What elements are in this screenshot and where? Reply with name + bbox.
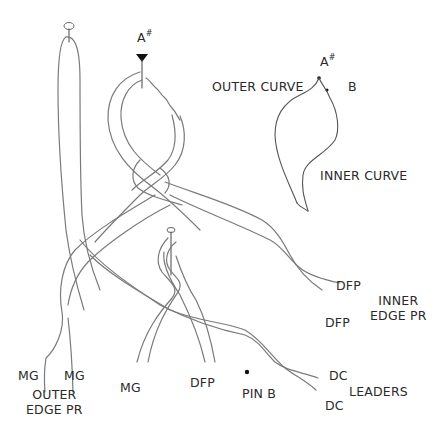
upper-knot	[95, 54, 200, 242]
leader-strands	[80, 240, 318, 390]
center-knot	[137, 228, 215, 363]
outer-edge-pr-line1: OUTER	[26, 387, 83, 402]
inner-edge-pr-label: INNER EDGE PR	[370, 293, 427, 323]
outer-edge-pr-label: OUTER EDGE PR	[26, 387, 83, 417]
inset-curve-diagram	[275, 76, 338, 211]
dfp-center-label: DFP	[190, 377, 215, 390]
outer-curve-label: OUTER CURVE	[212, 81, 304, 94]
pin-b-dot-icon	[245, 370, 249, 374]
mg-center-label: MG	[120, 382, 141, 395]
inner-edge-pr-line2: EDGE PR	[370, 308, 427, 323]
mg-left-2-label: MG	[64, 370, 85, 383]
dfp-lower-label: DFP	[325, 317, 350, 330]
inner-edge-pr-line1: INNER	[370, 293, 427, 308]
dfp-upper-label: DFP	[336, 280, 361, 293]
dc-upper-label: DC	[329, 370, 348, 383]
left-tall-loop	[58, 23, 100, 311]
outer-edge-pr-line2: EDGE PR	[26, 402, 83, 417]
inner-edge-strands	[165, 182, 340, 290]
pin-b-label: PIN B	[242, 388, 276, 401]
inner-curve-label: INNER CURVE	[320, 170, 407, 183]
pin-a-label: A#	[137, 32, 153, 45]
inset-a-label: A#	[320, 56, 336, 69]
b-label: B	[348, 81, 357, 94]
dc-lower-label: DC	[325, 400, 344, 413]
outer-edge-strands	[44, 195, 170, 392]
leaders-label: LEADERS	[349, 386, 408, 399]
mg-left-1-label: MG	[18, 370, 39, 383]
